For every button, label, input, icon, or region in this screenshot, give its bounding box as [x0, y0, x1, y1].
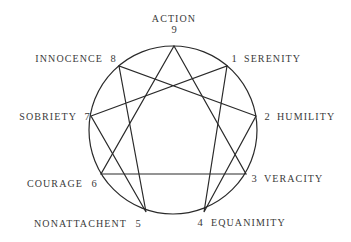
label-innocence: INNOCENCE	[35, 53, 103, 64]
number-3: 3	[251, 173, 256, 184]
label-humility: HUMILITY	[277, 111, 335, 122]
label-action: ACTION	[152, 13, 196, 24]
label-2: 2 HUMILITY	[264, 111, 335, 122]
enneagram-diagram: ACTION 9 INNOCENCE 8 1 SERENITY SOBRIETY…	[0, 0, 351, 242]
label-sobriety: SOBRIETY	[19, 111, 77, 122]
label-6: COURAGE 6	[27, 178, 97, 189]
label-veracity: VERACITY	[264, 173, 323, 184]
inner-triangle	[101, 46, 246, 174]
label-4: 4 EQUANIMITY	[197, 217, 286, 228]
number-4: 4	[197, 217, 203, 228]
number-6: 6	[91, 178, 96, 189]
number-2: 2	[264, 111, 269, 122]
label-1: 1 SERENITY	[231, 53, 301, 64]
number-7: 7	[84, 111, 89, 122]
label-7: SOBRIETY 7	[19, 111, 89, 122]
label-serenity: SERENITY	[244, 53, 301, 64]
label-9: ACTION 9	[152, 13, 196, 35]
number-8: 8	[110, 53, 115, 64]
enneagram-circle	[89, 46, 257, 214]
number-9: 9	[171, 24, 176, 35]
label-3: 3 VERACITY	[251, 173, 323, 184]
label-8: INNOCENCE 8	[35, 53, 115, 64]
label-nonattachent: NONATTACHENT	[34, 218, 127, 229]
label-equanimity: EQUANIMITY	[211, 217, 286, 228]
label-courage: COURAGE	[27, 178, 83, 189]
number-5: 5	[135, 218, 140, 229]
label-5: NONATTACHENT 5	[34, 218, 141, 229]
number-1: 1	[231, 53, 236, 64]
